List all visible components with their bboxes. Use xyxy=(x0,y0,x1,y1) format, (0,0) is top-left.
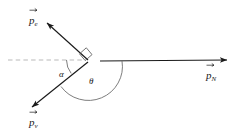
label-p-nucleus-subscript: N xyxy=(212,75,217,83)
label-p-electron: pe xyxy=(29,11,38,28)
momentum-vector-diagram: pe pν pN α θ xyxy=(0,0,235,140)
label-p-nucleus: pN xyxy=(206,66,216,83)
label-p-neutrino: pν xyxy=(29,113,38,130)
arc-alpha xyxy=(67,60,72,73)
label-angle-alpha: α xyxy=(59,70,64,79)
label-p-nucleus-symbol: p xyxy=(206,69,212,81)
vector-p-nucleus xyxy=(100,60,227,61)
label-p-neutrino-symbol: p xyxy=(29,116,35,128)
label-p-electron-symbol: p xyxy=(29,14,35,26)
label-angle-theta: θ xyxy=(89,77,93,86)
vector-p-electron xyxy=(47,23,88,60)
